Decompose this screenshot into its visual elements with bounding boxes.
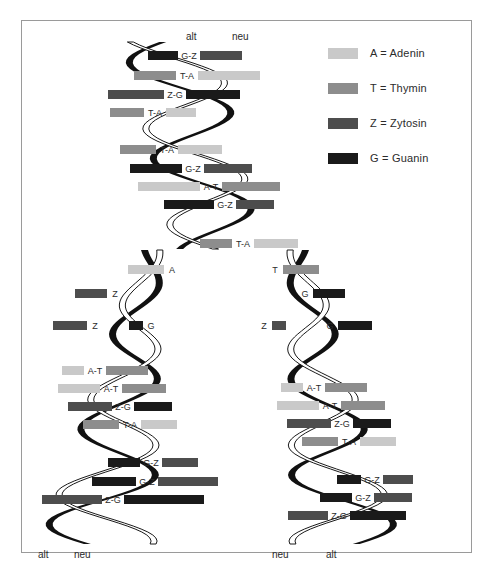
base-pair-label: G [301, 289, 308, 299]
legend-item-z: Z = Zytosin [328, 114, 468, 132]
base-bar-z [75, 289, 107, 298]
base-bar-z [68, 402, 112, 411]
base-bar-z [374, 493, 412, 502]
legend: A = AdeninT = ThyminZ = ZytosinG = Guani… [328, 44, 468, 184]
base-bar-a [277, 401, 319, 410]
strand-end-label-bottom-left-old: alt [38, 549, 49, 560]
base-bar-t [283, 265, 319, 274]
base-bar-z [42, 495, 102, 504]
base-bar-g [353, 419, 391, 428]
base-pair-label: T-A [160, 145, 174, 155]
base-pair-label: A-T [104, 384, 119, 394]
base-bar-g [320, 493, 352, 502]
legend-swatch-a [328, 48, 358, 59]
base-pair-label: G-Z [355, 493, 371, 503]
base-bar-z [200, 51, 242, 60]
base-bar-g [130, 164, 182, 173]
base-bar-a [198, 71, 260, 80]
base-bar-a [141, 420, 177, 429]
legend-item-g: G = Guanin [328, 149, 468, 167]
base-bar-g [186, 90, 240, 99]
base-pair-label: A-T [307, 383, 322, 393]
base-pair-label: A [169, 265, 175, 275]
base-pair-label: Z [92, 321, 98, 331]
strand-end-label-top-new: neu [232, 31, 249, 42]
base-bar-t [122, 384, 166, 393]
base-pair-label: Z-G [334, 419, 350, 429]
base-pair-label: G-Z [181, 51, 197, 61]
strand-end-label-top-old: alt [186, 31, 197, 42]
base-bar-g [350, 511, 406, 520]
base-bar-g [129, 321, 143, 330]
base-bar-z [108, 90, 164, 99]
base-pair-label: Z [112, 289, 118, 299]
base-bar-t [83, 420, 119, 429]
dna-replication-figure: G-ZT-AZ-GT-AT-AG-ZA-TG-ZT-AA-TA-TZ-GT-AG… [0, 0, 494, 575]
base-pair-label: G-Z [217, 200, 233, 210]
base-bar-t [200, 239, 232, 248]
base-bar-t [106, 366, 148, 375]
base-bar-t [134, 71, 176, 80]
base-pair-label: G-Z [364, 475, 380, 485]
legend-label-g: G = Guanin [370, 152, 429, 164]
base-pair-label: Z [261, 321, 267, 331]
base-bar-a [138, 182, 200, 191]
base-bar-z [272, 321, 286, 330]
base-bar-g [313, 289, 345, 298]
base-pair-label: Z-G [115, 402, 131, 412]
base-bar-a [254, 239, 298, 248]
base-pair-label: A-T [204, 182, 219, 192]
base-bar-g [338, 321, 372, 330]
base-bar-g [337, 475, 361, 484]
base-pair-label: A-T [88, 366, 103, 376]
legend-swatch-g [328, 153, 358, 164]
legend-label-z: Z = Zytosin [370, 117, 427, 129]
base-bar-a [178, 145, 222, 154]
strand-end-label-bottom-left-new: neu [74, 549, 91, 560]
base-bar-g [108, 458, 140, 467]
legend-swatch-t [328, 83, 358, 94]
base-bar-t [325, 383, 367, 392]
legend-item-t: T = Thymin [328, 79, 468, 97]
base-bar-z [204, 164, 252, 173]
base-pair-label: G [147, 321, 154, 331]
base-bar-a [360, 437, 396, 446]
base-pair-label: T-A [236, 239, 250, 249]
base-bar-g [164, 200, 214, 209]
base-pair-label: G [326, 321, 333, 331]
base-bar-z [158, 477, 218, 486]
base-bar-t [120, 145, 156, 154]
base-bar-t [302, 437, 338, 446]
base-pair-label: G-Z [139, 477, 155, 487]
base-bar-a [281, 383, 303, 392]
base-bar-g [124, 495, 204, 504]
base-bar-a [62, 366, 84, 375]
base-bar-z [287, 419, 331, 428]
base-pair-label: Z-G [105, 495, 121, 505]
base-pair-label: G-Z [185, 164, 201, 174]
legend-label-t: T = Thymin [370, 82, 427, 94]
base-pair-label: Z-G [167, 90, 183, 100]
base-bar-z [288, 511, 328, 520]
base-pair-label: Z-G [331, 511, 347, 521]
base-pair-label: T-A [123, 420, 137, 430]
base-bar-g [148, 51, 178, 60]
base-pair-label: T-A [148, 108, 162, 118]
base-pair-label: T-A [180, 71, 194, 81]
base-pair-label: A-T [323, 401, 338, 411]
base-bar-a [166, 108, 196, 117]
base-bar-g [92, 477, 136, 486]
legend-label-a: A = Adenin [370, 47, 425, 59]
base-bar-z [383, 475, 413, 484]
base-pair-label: T-A [342, 437, 356, 447]
strand-end-label-bottom-right-new: neu [272, 549, 289, 560]
base-bar-a [128, 265, 164, 274]
base-bar-t [110, 108, 144, 117]
legend-swatch-z [328, 118, 358, 129]
legend-item-a: A = Adenin [328, 44, 468, 62]
base-bar-z [53, 321, 87, 330]
base-pair-label: T [272, 265, 278, 275]
base-bar-t [222, 182, 280, 191]
base-bar-t [341, 401, 385, 410]
base-bar-z [162, 458, 198, 467]
